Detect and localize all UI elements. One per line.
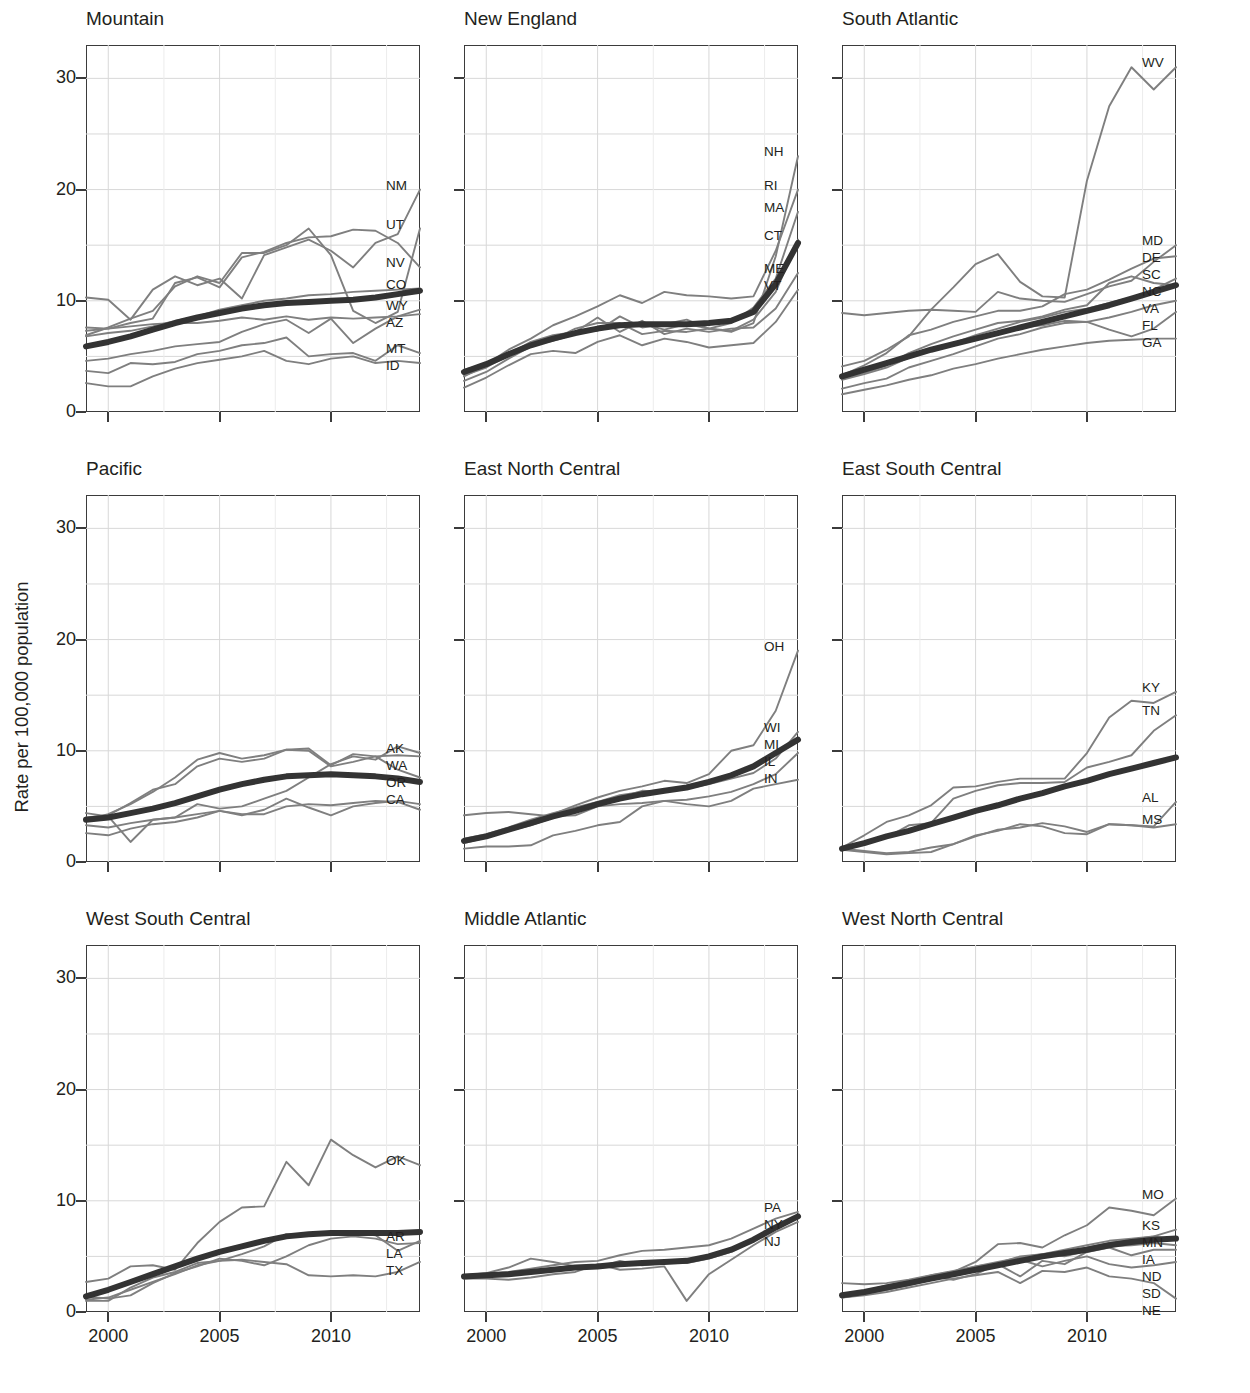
x-tick (862, 862, 866, 874)
series-label-pa: PA (764, 1200, 781, 1215)
x-tick-label: 2000 (834, 1326, 894, 1347)
y-tick-label: 0 (42, 1301, 76, 1322)
panel-west-south-central: West South CentralOKARLATX01020302000200… (42, 908, 420, 1358)
series-label-ia: IA (1142, 1252, 1155, 1267)
y-tick (832, 976, 844, 980)
state-line-de (842, 256, 1176, 375)
y-tick (832, 638, 844, 642)
x-tick (484, 412, 488, 424)
y-tick (76, 638, 88, 642)
plot-canvas: MOKSMNIANDSDNE (842, 945, 1176, 1372)
y-tick-label: 10 (42, 1190, 76, 1211)
series-label-al: AL (1142, 790, 1159, 805)
state-line-vt (464, 290, 798, 388)
y-tick (454, 976, 466, 980)
x-tick (106, 412, 110, 424)
panel-title: West South Central (86, 908, 250, 930)
series-label-mo: MO (1142, 1187, 1164, 1202)
y-tick-label: 30 (42, 967, 76, 988)
regional-trend-line (464, 740, 798, 841)
regional-trend-line (842, 285, 1176, 376)
y-tick (76, 299, 88, 303)
x-tick-label: 2005 (190, 1326, 250, 1347)
series-label-nm: NM (386, 178, 407, 193)
plot-canvas: OHWIMIILIN (464, 495, 798, 922)
panel-west-north-central: West North CentralMOKSMNIANDSDNE20002005… (798, 908, 1176, 1358)
series-label-ms: MS (1142, 812, 1162, 827)
x-tick (862, 1312, 866, 1324)
x-tick-label: 2005 (946, 1326, 1006, 1347)
y-tick-label: 0 (42, 401, 76, 422)
y-tick-label: 30 (42, 67, 76, 88)
plot-canvas: KYTNALMS (842, 495, 1176, 922)
series-label-mi: MI (764, 737, 779, 752)
x-tick-label: 2010 (301, 1326, 361, 1347)
x-tick (974, 412, 978, 424)
series-label-vt: VT (764, 278, 781, 293)
x-tick (1085, 412, 1089, 424)
y-tick (454, 299, 466, 303)
x-tick (106, 862, 110, 874)
y-tick (454, 526, 466, 530)
y-tick (76, 76, 88, 80)
series-label-ut: UT (386, 217, 404, 232)
series-label-ma: MA (764, 200, 784, 215)
panel-mountain: MountainNMUTNVCOWYAZMTID0102030 (42, 8, 420, 458)
series-label-me: ME (764, 261, 784, 276)
regional-trend-line (464, 243, 798, 372)
y-tick (832, 1088, 844, 1092)
x-tick (329, 1312, 333, 1324)
x-tick-label: 2005 (568, 1326, 628, 1347)
y-tick (454, 749, 466, 753)
x-tick-label: 2000 (78, 1326, 138, 1347)
series-label-or: OR (386, 775, 407, 790)
y-tick (76, 749, 88, 753)
x-tick (218, 862, 222, 874)
y-tick (76, 976, 88, 980)
series-label-ne: NE (1142, 1303, 1161, 1318)
series-label-ar: AR (386, 1229, 405, 1244)
state-line-oh (464, 651, 798, 840)
regional-trend-line (86, 1232, 420, 1297)
series-label-mn: MN (1142, 1235, 1163, 1250)
y-tick-label: 30 (42, 517, 76, 538)
state-line-fl (842, 312, 1176, 389)
y-tick (76, 188, 88, 192)
y-tick (832, 299, 844, 303)
y-tick (832, 749, 844, 753)
y-tick (832, 76, 844, 80)
series-label-nv: NV (386, 255, 405, 270)
panel-pacific: PacificAKWAORCA0102030 (42, 458, 420, 908)
series-label-wy: WY (386, 298, 408, 313)
x-tick (218, 412, 222, 424)
series-label-nc: NC (1142, 284, 1162, 299)
panel-east-north-central: East North CentralOHWIMIILIN (420, 458, 798, 908)
series-label-mt: MT (386, 341, 406, 356)
panel-title: West North Central (842, 908, 1003, 930)
x-tick-label: 2010 (679, 1326, 739, 1347)
panel-east-south-central: East South CentralKYTNALMS (798, 458, 1176, 908)
panel-title: South Atlantic (842, 8, 958, 30)
y-tick-label: 10 (42, 290, 76, 311)
y-tick-label: 0 (42, 851, 76, 872)
series-label-sc: SC (1142, 267, 1161, 282)
y-tick (76, 1199, 88, 1203)
x-tick (106, 1312, 110, 1324)
series-label-la: LA (386, 1246, 403, 1261)
series-label-nj: NJ (764, 1234, 781, 1249)
x-tick (974, 862, 978, 874)
series-label-md: MD (1142, 233, 1163, 248)
series-label-de: DE (1142, 250, 1161, 265)
panel-title: Pacific (86, 458, 142, 480)
x-tick (862, 412, 866, 424)
y-tick (76, 860, 88, 864)
y-tick-label: 10 (42, 740, 76, 761)
series-label-wa: WA (386, 758, 407, 773)
x-tick (329, 862, 333, 874)
x-tick-label: 2000 (456, 1326, 516, 1347)
series-label-wv: WV (1142, 55, 1164, 70)
y-tick (76, 1088, 88, 1092)
x-tick (329, 412, 333, 424)
panel-middle-atlantic: Middle AtlanticPANYNJ200020052010 (420, 908, 798, 1358)
y-tick-label: 20 (42, 179, 76, 200)
